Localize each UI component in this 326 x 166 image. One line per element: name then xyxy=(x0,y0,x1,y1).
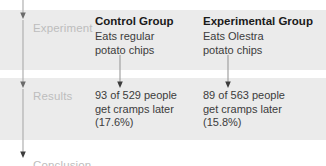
control-group-result-line-2: get cramps later xyxy=(95,103,203,117)
control-group-desc-line-1: Eats regular xyxy=(95,30,203,44)
experimental-group-results-cell: 89 of 563 people get cramps later (15.8%… xyxy=(203,89,311,130)
connector-arrow-experimental-group xyxy=(222,55,234,91)
control-group-title: Control Group xyxy=(95,14,203,28)
stage-label-results: Results xyxy=(33,90,72,102)
control-group-experiment-cell: Control Group Eats regular potato chips xyxy=(95,14,203,57)
experimental-group-result-line-1: 89 of 563 people xyxy=(203,89,311,103)
experimental-group-result-line-2: get cramps later xyxy=(203,103,311,117)
experiment-flow-diagram: Experiment Results Conclusion Control Gr… xyxy=(0,0,326,166)
stage-label-conclusion: Conclusion xyxy=(33,159,91,166)
experimental-group-experiment-cell: Experimental Group Eats Olestra potato c… xyxy=(203,14,311,57)
control-group-result-line-1: 93 of 529 people xyxy=(95,89,203,103)
experimental-group-result-percent: (15.8%) xyxy=(203,116,311,130)
stage-label-experiment: Experiment xyxy=(33,22,93,34)
experimental-group-title: Experimental Group xyxy=(203,14,311,28)
control-group-results-cell: 93 of 529 people get cramps later (17.6%… xyxy=(95,89,203,130)
control-group-desc-line-2: potato chips xyxy=(95,44,203,58)
connector-arrow-control-group xyxy=(114,55,126,91)
control-group-result-percent: (17.6%) xyxy=(95,116,203,130)
experimental-group-desc-line-2: potato chips xyxy=(203,44,311,58)
stage-flow-spine-arrow xyxy=(14,0,32,166)
experimental-group-desc-line-1: Eats Olestra xyxy=(203,30,311,44)
